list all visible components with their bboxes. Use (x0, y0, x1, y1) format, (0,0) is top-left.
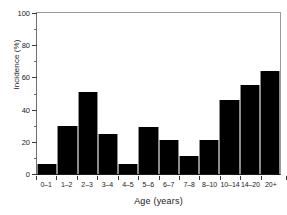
y-tick-minor-mark (34, 126, 37, 127)
bar-cell (118, 13, 138, 174)
bar-cell (179, 13, 199, 174)
bar (37, 164, 57, 174)
x-tick: 14–20 (240, 176, 260, 194)
y-tick-label: 20 (22, 137, 30, 146)
x-tick-label: 4–5 (122, 181, 133, 188)
x-tick: 20+ (261, 176, 281, 194)
y-tick-mark (32, 110, 37, 111)
x-tick: 2–3 (77, 176, 97, 194)
x-tick: 8–10 (199, 176, 219, 194)
y-tick-mark (32, 142, 37, 143)
x-axis-tick-end (286, 176, 287, 180)
x-tick-mark (220, 176, 221, 180)
y-tick-mark (32, 45, 37, 46)
y-tick-mark (32, 174, 37, 175)
bar-cell (159, 13, 179, 174)
x-tick-mark (56, 176, 57, 180)
x-tick-mark (199, 176, 200, 180)
x-tick-mark (118, 176, 119, 180)
x-tick: 10–14 (220, 176, 240, 194)
x-tick-label: 14–20 (241, 181, 260, 188)
x-tick-mark (240, 176, 241, 180)
x-tick: 1–2 (56, 176, 76, 194)
chart-figure: Incidence (%) 020406080100 0–11–22–33–44… (0, 0, 287, 215)
bar (179, 156, 199, 174)
x-tick-label: 3–4 (102, 181, 113, 188)
bar (159, 140, 179, 174)
bar (57, 126, 77, 174)
x-tick-label: 0–1 (41, 181, 52, 188)
x-tick: 6–7 (159, 176, 179, 194)
x-tick-label: 5–6 (143, 181, 154, 188)
bar-cell (98, 13, 118, 174)
plot-area: 020406080100 (36, 12, 281, 175)
x-tick-mark (159, 176, 160, 180)
y-tick-minor-mark (34, 94, 37, 95)
x-tick: 4–5 (118, 176, 138, 194)
x-tick-label: 10–14 (221, 181, 240, 188)
x-tick: 0–1 (36, 176, 56, 194)
x-tick-mark (261, 176, 262, 180)
y-axis-title: Incidence (%) (12, 5, 21, 125)
bar (138, 127, 158, 174)
bar-cell (138, 13, 158, 174)
x-tick-label: 1–2 (61, 181, 72, 188)
x-tick: 3–4 (97, 176, 117, 194)
bar-cell (78, 13, 98, 174)
x-tick-mark (36, 176, 37, 180)
bar (199, 140, 219, 174)
y-tick-minor-mark (34, 29, 37, 30)
x-tick-label: 2–3 (81, 181, 92, 188)
x-tick-mark (77, 176, 78, 180)
x-tick-mark (97, 176, 98, 180)
bar (219, 100, 239, 174)
x-tick-mark (138, 176, 139, 180)
bar-cell (219, 13, 239, 174)
bar (98, 134, 118, 174)
bar (78, 92, 98, 174)
y-tick-minor-mark (34, 158, 37, 159)
bar-cell (199, 13, 219, 174)
x-axis-title: Age (years) (36, 196, 281, 206)
y-tick-mark (32, 77, 37, 78)
bar (260, 71, 280, 174)
y-tick-mark (32, 13, 37, 14)
y-tick-label: 0 (26, 170, 30, 179)
bar-cell (240, 13, 260, 174)
x-tick-label: 20+ (265, 181, 277, 188)
x-axis-ticks: 0–11–22–33–44–55–66–77–88–1010–1414–2020… (36, 176, 281, 194)
bar-series (37, 13, 280, 174)
y-tick-label: 40 (22, 105, 30, 114)
y-tick-label: 80 (22, 41, 30, 50)
bar-cell (37, 13, 57, 174)
x-tick-label: 7–8 (183, 181, 194, 188)
x-tick: 7–8 (179, 176, 199, 194)
y-tick-label: 60 (22, 73, 30, 82)
x-tick-mark (179, 176, 180, 180)
bar-cell (57, 13, 77, 174)
x-tick-label: 6–7 (163, 181, 174, 188)
y-tick-label: 100 (17, 9, 30, 18)
bar (240, 85, 260, 174)
x-tick-label: 8–10 (202, 181, 217, 188)
bar-cell (260, 13, 280, 174)
bar (118, 164, 138, 174)
x-tick: 5–6 (138, 176, 158, 194)
y-tick-minor-mark (34, 61, 37, 62)
